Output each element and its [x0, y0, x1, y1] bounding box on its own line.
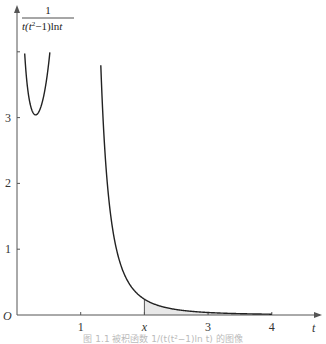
y-tick-label: 3 [5, 111, 11, 125]
x-tick-label: 3 [205, 320, 211, 334]
y-tick-label: 1 [5, 242, 11, 256]
figure-caption: 图 1.1 被积函数 1/(t(t²−1)ln t) 的图像 [83, 333, 242, 344]
x-tick-label: 1 [78, 320, 84, 334]
chart-svg: 1x34123 O t 1 t(t2−1)lnt 图 1.1 被积函数 1/(t… [0, 0, 326, 344]
curve-right-branch [101, 65, 272, 314]
y-label-numerator: 1 [45, 4, 51, 16]
x-tick-label: 4 [269, 320, 275, 334]
y-label-denominator: t(t2−1)lnt [22, 20, 63, 33]
y-label-denom-part-3: −1)ln [35, 20, 59, 33]
y-axis-label: 1 t(t2−1)lnt [22, 4, 74, 33]
y-axis-arrow-icon [14, 5, 20, 13]
x-axis-label: t [312, 321, 316, 335]
curves-group [25, 52, 272, 314]
x-axis-arrow-icon [314, 312, 322, 318]
origin-label: O [3, 309, 12, 323]
ticks-group: 1x34123 [5, 52, 275, 334]
x-tick-label: x [141, 320, 148, 334]
curve-left-branch [25, 52, 50, 115]
y-tick-label: 2 [5, 176, 11, 190]
axes-group [14, 5, 322, 318]
y-label-denom-part-4: t [59, 20, 63, 32]
